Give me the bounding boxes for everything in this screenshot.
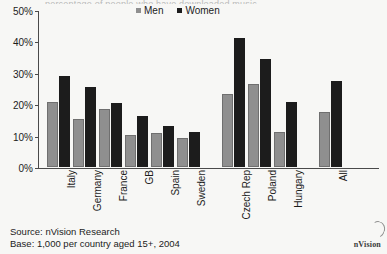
- y-axis-tick-label: 10%: [13, 131, 33, 142]
- bar-men: [222, 94, 233, 167]
- source-text: Source: nVision Research: [10, 226, 180, 238]
- brand-logo: nVision: [354, 240, 381, 249]
- y-axis-tick-label: 30%: [13, 68, 33, 79]
- y-axis-line: [38, 11, 39, 169]
- y-axis-tick-label: 50%: [13, 6, 33, 17]
- bar-women: [331, 81, 342, 167]
- x-axis-label-text: Spain: [170, 170, 181, 196]
- x-axis-label: GB: [141, 170, 152, 184]
- x-axis-label-text: Hungary: [293, 170, 304, 208]
- bar-women: [189, 132, 200, 167]
- x-axis-line: [38, 168, 379, 169]
- x-axis-label: All: [335, 170, 346, 181]
- y-axis-tick-label: 0%: [19, 163, 33, 174]
- x-axis-label: Spain: [167, 170, 178, 196]
- base-text: Base: 1,000 per country aged 15+, 2004: [10, 238, 180, 250]
- bar-men: [248, 84, 259, 167]
- x-axis-label-text: Czech Rep: [241, 170, 252, 219]
- bar-women: [163, 126, 174, 167]
- x-axis-label-text: Germany: [92, 170, 103, 211]
- bar-men: [319, 112, 330, 167]
- x-axis-label: Italy: [63, 170, 74, 188]
- x-axis-category-labels: ItalyGermanyFranceGBSpainSwedenCzech Rep…: [38, 170, 379, 222]
- bar-women: [59, 76, 70, 167]
- y-axis-tick-label: 40%: [13, 37, 33, 48]
- bar-women: [137, 116, 148, 167]
- x-axis-label: Poland: [264, 170, 275, 201]
- swoosh-icon: [368, 219, 387, 240]
- x-axis-label-text: Sweden: [196, 170, 207, 206]
- y-axis-tick: [35, 137, 39, 138]
- y-axis-tick: [35, 168, 39, 169]
- x-axis-label-text: Italy: [66, 170, 77, 188]
- bar-men: [177, 138, 188, 167]
- bar-women: [85, 87, 96, 167]
- bar-men: [99, 109, 110, 167]
- bar-chart-figure: percentage of people who have downloaded…: [0, 0, 387, 254]
- x-axis-label-text: All: [338, 170, 349, 181]
- x-axis-label-text: GB: [144, 170, 155, 184]
- x-axis-label: France: [115, 170, 126, 201]
- y-axis-tick: [35, 105, 39, 106]
- x-axis-label-text: France: [118, 170, 129, 201]
- x-axis-label: Sweden: [193, 170, 204, 206]
- y-axis-tick: [35, 74, 39, 75]
- y-axis-tick-label: 20%: [13, 100, 33, 111]
- plot-area: 0%10%20%30%40%50%: [38, 11, 379, 168]
- bar-women: [260, 59, 271, 167]
- x-axis-label: Hungary: [290, 170, 301, 208]
- y-axis-tick: [35, 42, 39, 43]
- bar-men: [47, 102, 58, 167]
- bar-men: [151, 133, 162, 167]
- bar-women: [234, 38, 245, 167]
- bar-women: [111, 103, 122, 167]
- bar-men: [274, 132, 285, 167]
- y-axis-tick: [35, 11, 39, 12]
- x-axis-label-text: Poland: [267, 170, 278, 201]
- bar-men: [73, 119, 84, 167]
- bar-men: [125, 135, 136, 167]
- x-axis-label: Czech Rep: [238, 170, 249, 219]
- x-axis-label: Germany: [89, 170, 100, 211]
- bar-women: [286, 102, 297, 167]
- chart-footer: Source: nVision Research Base: 1,000 per…: [10, 226, 180, 250]
